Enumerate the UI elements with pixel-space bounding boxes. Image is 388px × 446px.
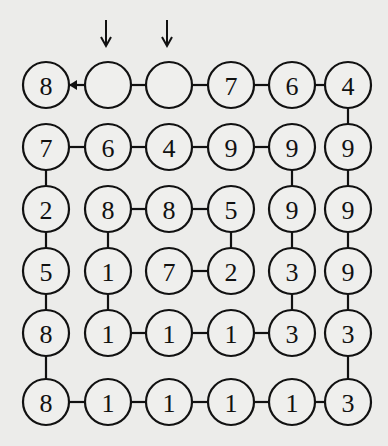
- node-value: 1: [163, 389, 176, 418]
- number-node: 4: [146, 124, 192, 170]
- node-circle: [146, 62, 192, 108]
- node-value: 9: [342, 258, 355, 287]
- node-circle: [85, 62, 131, 108]
- number-node: 8: [23, 310, 69, 356]
- number-path-puzzle: 8764764999288599517239811133811113: [0, 0, 388, 446]
- number-node: 9: [269, 186, 315, 232]
- number-node: 3: [269, 310, 315, 356]
- node-value: 7: [225, 72, 238, 101]
- node-value: 1: [286, 389, 299, 418]
- node-value: 2: [40, 196, 53, 225]
- number-node: 7: [23, 124, 69, 170]
- number-node: 6: [85, 124, 131, 170]
- node-value: 1: [163, 320, 176, 349]
- empty-node: [85, 62, 131, 108]
- number-node: 8: [23, 62, 69, 108]
- number-node: 7: [208, 62, 254, 108]
- puzzle-board: 8764764999288599517239811133811113: [0, 0, 388, 446]
- number-node: 5: [208, 186, 254, 232]
- number-node: 5: [23, 248, 69, 294]
- node-value: 1: [225, 389, 238, 418]
- node-value: 3: [342, 389, 355, 418]
- number-node: 1: [85, 379, 131, 425]
- number-node: 6: [269, 62, 315, 108]
- node-value: 8: [40, 72, 53, 101]
- node-value: 5: [40, 258, 53, 287]
- number-node: 7: [146, 248, 192, 294]
- empty-node: [146, 62, 192, 108]
- node-value: 3: [342, 320, 355, 349]
- number-node: 3: [269, 248, 315, 294]
- node-value: 9: [342, 134, 355, 163]
- number-node: 1: [208, 310, 254, 356]
- number-node: 9: [269, 124, 315, 170]
- node-value: 7: [163, 258, 176, 287]
- node-value: 4: [342, 72, 355, 101]
- node-value: 2: [225, 258, 238, 287]
- node-value: 3: [286, 258, 299, 287]
- node-value: 8: [40, 320, 53, 349]
- number-node: 9: [325, 124, 371, 170]
- number-node: 8: [146, 186, 192, 232]
- node-value: 1: [225, 320, 238, 349]
- node-value: 1: [102, 320, 115, 349]
- node-value: 1: [102, 389, 115, 418]
- node-value: 6: [286, 72, 299, 101]
- number-node: 1: [146, 379, 192, 425]
- node-value: 4: [163, 134, 176, 163]
- number-node: 4: [325, 62, 371, 108]
- number-node: 1: [269, 379, 315, 425]
- node-value: 9: [342, 196, 355, 225]
- node-value: 9: [225, 134, 238, 163]
- node-value: 8: [163, 196, 176, 225]
- down-arrow-icon: [162, 20, 172, 46]
- down-arrow-icon: [101, 20, 111, 46]
- number-node: 1: [208, 379, 254, 425]
- number-node: 2: [208, 248, 254, 294]
- number-node: 8: [85, 186, 131, 232]
- node-value: 9: [286, 134, 299, 163]
- node-value: 5: [225, 196, 238, 225]
- number-node: 9: [325, 248, 371, 294]
- number-node: 9: [208, 124, 254, 170]
- node-value: 8: [102, 196, 115, 225]
- node-value: 1: [102, 258, 115, 287]
- node-value: 7: [40, 134, 53, 163]
- number-node: 2: [23, 186, 69, 232]
- left-arrowhead-icon: [69, 80, 77, 90]
- number-node: 1: [85, 248, 131, 294]
- node-value: 8: [40, 389, 53, 418]
- node-value: 3: [286, 320, 299, 349]
- number-nodes: 8764764999288599517239811133811113: [23, 62, 371, 425]
- number-node: 9: [325, 186, 371, 232]
- number-node: 1: [146, 310, 192, 356]
- number-node: 8: [23, 379, 69, 425]
- number-node: 1: [85, 310, 131, 356]
- node-value: 9: [286, 196, 299, 225]
- number-node: 3: [325, 379, 371, 425]
- node-value: 6: [102, 134, 115, 163]
- number-node: 3: [325, 310, 371, 356]
